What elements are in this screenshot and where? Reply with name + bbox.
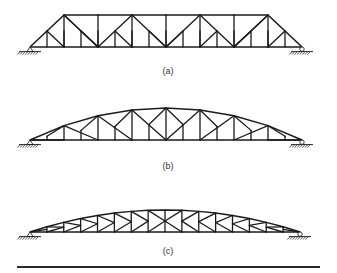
k-diagonal — [64, 222, 81, 225]
roller-icon — [298, 232, 302, 236]
ground-hatch — [17, 52, 20, 55]
sub-diagonal — [149, 108, 166, 124]
caption-c: (c) — [163, 246, 174, 256]
k-diagonal — [182, 211, 199, 221]
k-diagonal — [81, 219, 98, 224]
sub-diagonal — [149, 31, 166, 47]
sub-diagonal — [81, 31, 98, 47]
truss-figure: (a) (b) (c) — [0, 0, 337, 273]
sub-diagonal — [115, 31, 132, 47]
roller-icon — [300, 140, 304, 144]
ground-hatch — [289, 145, 292, 148]
k-diagonal — [165, 221, 182, 232]
k-diagonal — [233, 224, 250, 232]
truss-c — [17, 210, 311, 240]
caption-a: (a) — [163, 66, 174, 76]
k-diagonal — [249, 222, 266, 225]
k-diagonal — [216, 223, 233, 232]
support-left — [17, 232, 41, 240]
support-right — [287, 232, 311, 240]
truss-a — [17, 15, 313, 55]
support-right — [289, 47, 313, 55]
roller-icon — [300, 47, 304, 51]
caption-b: (b) — [163, 161, 174, 171]
ground-hatch — [17, 145, 20, 148]
k-diagonal — [98, 216, 115, 223]
sub-diagonal — [47, 31, 64, 47]
k-diagonal — [98, 223, 115, 232]
ground-hatch — [17, 237, 20, 240]
k-diagonal — [233, 219, 250, 224]
k-diagonal — [131, 221, 148, 232]
ground-hatch — [289, 52, 292, 55]
sub-diagonal — [200, 31, 217, 47]
k-diagonal — [249, 225, 266, 232]
k-diagonal — [199, 222, 216, 232]
support-left — [17, 140, 41, 148]
support-right — [289, 140, 313, 148]
k-diagonal — [165, 210, 182, 221]
sub-diagonal — [234, 31, 251, 47]
ground-hatch — [287, 237, 290, 240]
truss-b — [17, 108, 313, 148]
k-diagonal — [148, 221, 165, 232]
k-diagonal — [81, 224, 98, 232]
k-diagonal — [148, 210, 165, 221]
support-left — [17, 47, 41, 55]
sub-diagonal — [166, 108, 183, 124]
k-diagonal — [131, 211, 148, 221]
sub-diagonal — [166, 31, 183, 47]
k-diagonal — [114, 213, 131, 222]
k-diagonal — [64, 225, 81, 232]
k-diagonal — [182, 221, 199, 232]
sub-diagonal — [268, 31, 285, 47]
k-diagonal — [216, 216, 233, 223]
k-diagonal — [199, 213, 216, 222]
k-diagonal — [114, 222, 131, 232]
